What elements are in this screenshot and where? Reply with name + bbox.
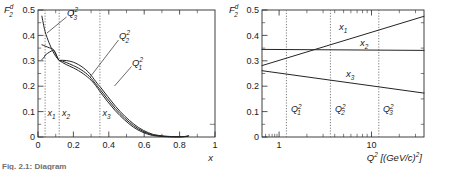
left-y-tick-labels: 0 0.1 0.2 0.3 0.4 0.5 — [22, 5, 35, 142]
left-y-ticklabel-3: 0.3 — [22, 56, 35, 66]
chart-panel-left: Fd2 0 0.1 0.2 0.3 0.4 0.5 — [0, 0, 226, 170]
right-x-ticklabel-1: 10 — [366, 140, 376, 150]
left-x-tick-labels: 0 0.2 0.4 0.6 0.8 1 — [35, 140, 217, 150]
right-y-ticklabel-1: 0.1 — [246, 107, 259, 117]
right-x-tick-labels: 1 10 — [277, 140, 377, 150]
left-curve-label-Q3: Q23 — [67, 6, 78, 20]
right-line-label-x1: x1 — [338, 21, 348, 34]
left-y-ticklabel-0: 0 — [30, 132, 35, 142]
left-x-ticklabel-2: 0.4 — [103, 140, 116, 150]
right-region-label-Q1: Q21 — [291, 103, 302, 117]
leader-Q3 — [47, 17, 67, 33]
right-line-label-x3: x3 — [345, 68, 355, 81]
right-y-ticklabel-3: 0.3 — [246, 56, 259, 66]
left-y-axis-label-sub: 2 — [8, 11, 13, 18]
left-x-ticklabel-1: 0.2 — [67, 140, 80, 150]
right-line-label-x2: x2 — [359, 37, 369, 50]
right-y-axis-label-sub: 2 — [233, 11, 238, 18]
left-y-ticklabel-2: 0.2 — [22, 81, 35, 91]
left-curve-Q3 — [42, 16, 189, 137]
left-curve-label-Q2: Q22 — [119, 29, 130, 43]
right-y-axis-label: Fd2 — [229, 3, 239, 17]
figure-caption: Fig. 2.1: Diagram — [2, 162, 450, 170]
right-y-ticklabel-5: 0.5 — [246, 5, 259, 15]
right-x-ticklabel-0: 1 — [277, 140, 282, 150]
left-region-label-x1: x1 — [47, 108, 57, 120]
leader-Q2 — [91, 40, 119, 77]
right-y-tick-labels: 0 0.1 0.2 0.3 0.4 0.5 — [246, 5, 259, 142]
chart-panel-right: Fd2 0 0.1 0.2 0.3 — [226, 0, 452, 170]
right-region-label-Q2: Q22 — [335, 103, 346, 117]
left-x-ticklabel-3: 0.6 — [138, 140, 151, 150]
right-y-ticklabel-0: 0 — [254, 132, 259, 142]
right-line-x3 — [262, 71, 424, 93]
left-region-label-x2: x2 — [61, 108, 71, 120]
right-region-label-Q3: Q23 — [383, 103, 394, 117]
figure-caption-text: Fig. 2.1: Diagram — [2, 162, 66, 170]
left-curve-label-Q1: Q21 — [132, 56, 143, 70]
left-y-ticklabel-5: 0.5 — [22, 5, 35, 15]
left-y-ticklabel-1: 0.1 — [22, 107, 35, 117]
leader-Q1 — [115, 67, 132, 87]
right-y-ticklabel-4: 0.4 — [246, 31, 259, 41]
left-y-ticklabel-4: 0.4 — [22, 31, 35, 41]
left-x-ticklabel-4: 0.8 — [173, 140, 186, 150]
left-region-label-x3: x3 — [102, 108, 112, 120]
left-y-axis-label: Fd2 — [4, 3, 14, 17]
right-region-markers — [286, 10, 378, 137]
left-x-ticklabel-5: 1 — [212, 140, 217, 150]
left-y-axis-label-sup: d — [10, 3, 14, 10]
left-curve-Q2 — [42, 45, 189, 137]
right-y-axis-label-sup: d — [235, 3, 239, 10]
figure-container: Fd2 0 0.1 0.2 0.3 0.4 0.5 — [0, 0, 452, 170]
left-x-ticklabel-0: 0 — [35, 140, 40, 150]
right-y-ticklabel-2: 0.2 — [246, 81, 259, 91]
